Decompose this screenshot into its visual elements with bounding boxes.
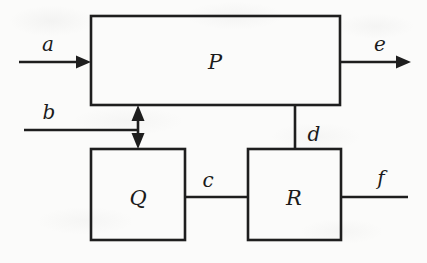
- diagram-canvas: P Q R a b c d e f: [0, 0, 427, 263]
- signal-e-label: e: [374, 32, 386, 56]
- signal-c-label: c: [202, 168, 213, 192]
- block-diagram: P Q R a b c d e f: [0, 0, 427, 263]
- signal-pq-arrowhead-up: [132, 105, 145, 121]
- signal-f-label: f: [375, 166, 388, 190]
- block-r-label: R: [285, 186, 302, 210]
- signal-pq-arrowhead-down: [132, 133, 145, 149]
- block-p-label: P: [207, 50, 223, 74]
- signal-a-arrowhead: [76, 56, 91, 69]
- signal-a-label: a: [42, 32, 54, 56]
- signal-b-label: b: [43, 100, 56, 124]
- block-q-label: Q: [129, 186, 146, 210]
- signal-d-label: d: [308, 122, 321, 146]
- signal-e-arrowhead: [396, 56, 411, 69]
